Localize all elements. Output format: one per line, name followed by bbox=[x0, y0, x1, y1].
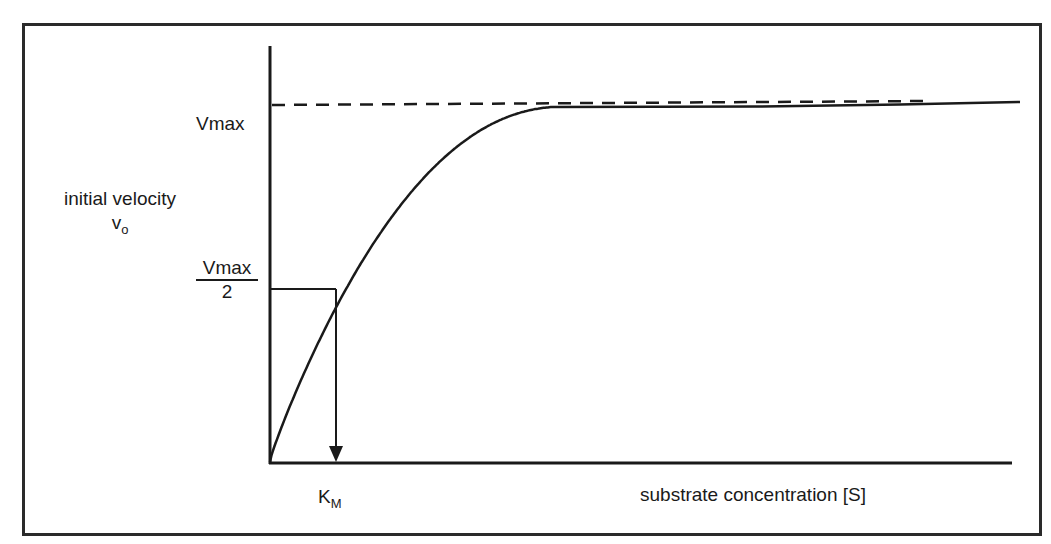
km-label-k: K bbox=[318, 486, 331, 507]
y-axis-label: initial velocity vo bbox=[40, 187, 200, 242]
km-arrow-head bbox=[329, 446, 343, 462]
plot-area bbox=[0, 0, 1051, 544]
km-label: KM bbox=[318, 486, 342, 511]
half-vmax-numerator: Vmax bbox=[196, 257, 258, 281]
vmax-label: Vmax bbox=[196, 113, 245, 135]
y-axis-symbol-v: v bbox=[112, 212, 122, 233]
y-axis-symbol: vo bbox=[40, 211, 200, 242]
half-vmax-label: Vmax 2 bbox=[196, 257, 258, 302]
half-vmax-denominator: 2 bbox=[196, 281, 258, 302]
michaelis-menten-curve bbox=[270, 102, 1020, 462]
y-axis-label-text: initial velocity bbox=[64, 188, 176, 209]
x-axis-label: substrate concentration [S] bbox=[640, 484, 866, 506]
km-label-subscript: M bbox=[331, 496, 342, 511]
y-axis-symbol-subscript: o bbox=[121, 222, 128, 237]
